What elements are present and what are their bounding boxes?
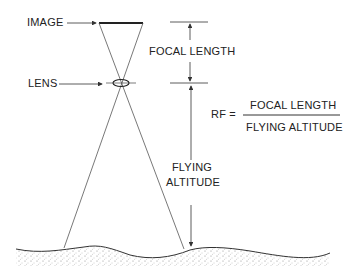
flying-altitude-line1: FLYING (166, 160, 218, 175)
focal-length-label: FOCAL LENGTH (149, 45, 235, 57)
representative-fraction-diagram: IMAGE LENS FOCAL LENGTH FLYING ALTITUDE … (0, 0, 355, 277)
image-label: IMAGE (27, 16, 63, 28)
diagram-canvas (0, 0, 355, 277)
flying-altitude-line2: ALTITUDE (166, 175, 218, 190)
lens-label: LENS (28, 77, 58, 89)
formula-denominator: FLYING ALTITUDE (246, 121, 343, 133)
rf-equals: RF = (211, 108, 236, 120)
flying-altitude-label: FLYING ALTITUDE (166, 160, 218, 190)
ground (16, 246, 330, 266)
formula-numerator: FOCAL LENGTH (250, 99, 336, 111)
